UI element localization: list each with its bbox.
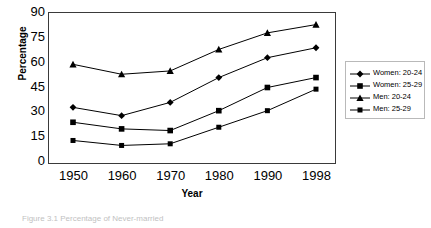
- data-point: [119, 143, 124, 148]
- y-tick-label: 90: [19, 5, 45, 18]
- y-tick-label: 30: [19, 104, 45, 117]
- series-men-20-24: [69, 21, 319, 77]
- data-point: [71, 138, 76, 143]
- data-point: [216, 125, 221, 130]
- data-point: [314, 87, 319, 92]
- data-point: [265, 108, 270, 113]
- y-tick-label: 15: [19, 129, 45, 142]
- data-point: [118, 112, 125, 119]
- y-tick-label: 75: [19, 30, 45, 43]
- data-point: [215, 46, 222, 53]
- legend-item: Women: 20-24: [349, 66, 421, 78]
- legend-marker-triangle-icon: [349, 90, 371, 102]
- data-point: [216, 108, 222, 114]
- legend: Women: 20-24Women: 25-29Men: 20-24Men: 2…: [345, 61, 425, 119]
- series-line: [73, 25, 316, 75]
- data-point: [119, 126, 125, 132]
- x-tick-label: 1980: [196, 168, 242, 183]
- x-tick-label: 1960: [99, 168, 145, 183]
- data-point: [215, 74, 222, 81]
- data-point: [70, 104, 77, 111]
- legend-marker-diamond-icon: [349, 66, 371, 78]
- data-point: [265, 85, 271, 91]
- data-point: [167, 99, 174, 106]
- legend-label: Men: 25-29: [371, 104, 411, 113]
- y-axis-tick-labels: 0153045607590: [16, 0, 45, 228]
- legend-label: Women: 20-24: [371, 68, 422, 77]
- series-men-25-29: [71, 87, 319, 148]
- legend-marker-small-square-icon: [349, 102, 371, 114]
- data-point: [69, 61, 76, 68]
- legend-item: Men: 25-29: [349, 102, 421, 114]
- x-tick-label: 1998: [294, 168, 340, 183]
- plot-area: [48, 12, 336, 164]
- legend-item: Men: 20-24: [349, 90, 421, 102]
- y-tick-label: 45: [19, 80, 45, 93]
- data-point: [168, 141, 173, 146]
- x-tick-label: 1990: [245, 168, 291, 183]
- series-line: [73, 89, 316, 145]
- data-point: [264, 54, 271, 61]
- series-canvas: [49, 13, 334, 162]
- data-point: [313, 75, 319, 81]
- legend-marker-square-icon: [349, 78, 371, 90]
- y-tick-label: 0: [19, 154, 45, 167]
- x-axis-title: Year: [48, 188, 336, 199]
- series-women-20-24: [70, 44, 320, 119]
- data-point: [167, 128, 173, 134]
- legend-label: Women: 25-29: [371, 80, 422, 89]
- series-line: [73, 78, 316, 131]
- figure-caption: Figure 3.1 Percentage of Never-married: [22, 214, 163, 223]
- data-point: [312, 21, 319, 28]
- data-point: [313, 44, 320, 51]
- figure: Percentage 0153045607590 195019601970198…: [0, 0, 431, 228]
- legend-item: Women: 25-29: [349, 78, 421, 90]
- y-tick-label: 60: [19, 55, 45, 68]
- x-tick-label: 1950: [51, 168, 97, 183]
- data-point: [70, 119, 76, 125]
- x-tick-label: 1970: [148, 168, 194, 183]
- legend-label: Men: 20-24: [371, 92, 411, 101]
- x-axis-tick-labels: 195019601970198019901998: [48, 168, 336, 188]
